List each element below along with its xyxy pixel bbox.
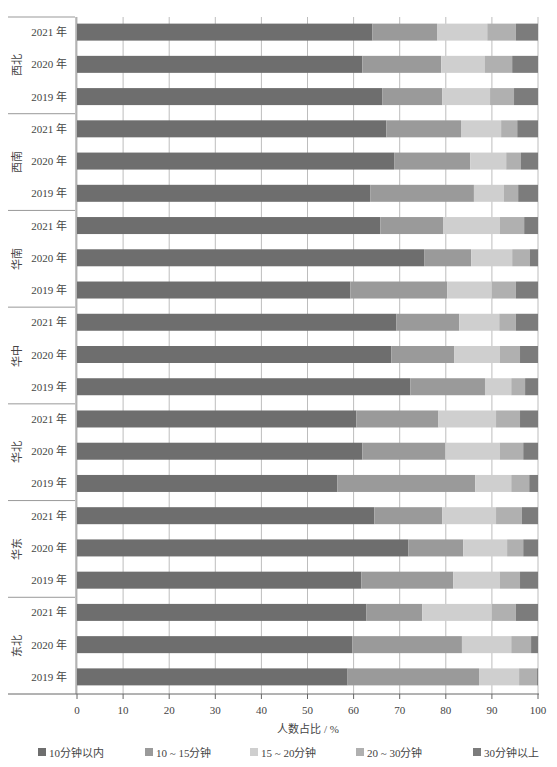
bar-segment bbox=[507, 539, 523, 556]
bar-segment bbox=[462, 636, 511, 653]
bar-segment bbox=[77, 668, 348, 685]
legend-label: 20 ~ 30分钟 bbox=[367, 744, 422, 760]
bar-segment bbox=[516, 24, 538, 41]
bar-segment bbox=[391, 346, 454, 363]
legend-item: 15 ~ 20分钟 bbox=[250, 744, 316, 760]
bar-segment bbox=[520, 410, 538, 427]
bar-row bbox=[77, 443, 538, 460]
bar-segment bbox=[521, 153, 538, 170]
legend-item: 20 ~ 30分钟 bbox=[356, 744, 422, 760]
bar-segment bbox=[77, 56, 362, 73]
x-tick-label: 70 bbox=[394, 704, 406, 716]
bar-row bbox=[77, 668, 538, 685]
bar-segment bbox=[454, 346, 500, 363]
bar-segment bbox=[496, 410, 520, 427]
bar-segment bbox=[396, 314, 459, 331]
bar-segment bbox=[492, 282, 516, 299]
legend-swatch-icon bbox=[145, 748, 153, 756]
legend-swatch-icon bbox=[356, 748, 364, 756]
bar-segment bbox=[485, 56, 512, 73]
bar-segment bbox=[520, 572, 538, 589]
stacked-bar-chart: 2021 年2020 年2019 年2021 年2020 年2019 年2021… bbox=[0, 0, 557, 767]
bar-segment bbox=[394, 153, 470, 170]
bar-row bbox=[77, 314, 538, 331]
bar-segment bbox=[530, 249, 538, 266]
bar-segment bbox=[520, 346, 538, 363]
bar-segment bbox=[511, 475, 529, 492]
x-axis: 0102030405060708090100 bbox=[8, 694, 547, 716]
bar-segment bbox=[337, 475, 475, 492]
bar-segment bbox=[496, 507, 522, 524]
bar-segment bbox=[77, 346, 391, 363]
bar-segment bbox=[475, 475, 511, 492]
bar-segment bbox=[504, 185, 518, 202]
year-label: 2020 年 bbox=[31, 348, 67, 361]
year-label: 2019 年 bbox=[31, 573, 67, 586]
bar-segment bbox=[77, 443, 362, 460]
bar-segment bbox=[348, 668, 479, 685]
legend-label: 30分钟以上 bbox=[484, 744, 539, 760]
bar-segment bbox=[350, 282, 447, 299]
bar-segment bbox=[500, 572, 520, 589]
bar-segment bbox=[529, 475, 538, 492]
bar-segment bbox=[441, 56, 485, 73]
bar-row bbox=[77, 56, 538, 73]
bar-segment bbox=[77, 153, 394, 170]
bar-segment bbox=[77, 24, 373, 41]
bar-segment bbox=[479, 668, 519, 685]
legend-item: 10 ~ 15分钟 bbox=[145, 744, 211, 760]
bar-segment bbox=[470, 153, 506, 170]
bars bbox=[77, 24, 538, 686]
year-label: 2019 年 bbox=[31, 90, 67, 103]
bar-row bbox=[77, 249, 538, 266]
bar-segment bbox=[512, 56, 538, 73]
bar-segment bbox=[437, 24, 487, 41]
bar-segment bbox=[370, 185, 474, 202]
year-label: 2019 年 bbox=[31, 283, 67, 296]
bar-segment bbox=[77, 282, 350, 299]
bar-segment bbox=[443, 217, 500, 234]
bar-segment bbox=[517, 120, 538, 137]
bar-segment bbox=[522, 507, 538, 524]
bar-segment bbox=[367, 604, 423, 621]
bar-segment bbox=[516, 314, 538, 331]
legend-label: 10分钟以内 bbox=[49, 744, 104, 760]
year-label: 2020 年 bbox=[31, 444, 67, 457]
bar-segment bbox=[499, 314, 516, 331]
year-label: 2021 年 bbox=[31, 25, 67, 38]
region-label: 华东 bbox=[10, 538, 23, 560]
year-label: 2020 年 bbox=[31, 251, 67, 264]
bar-segment bbox=[408, 539, 463, 556]
bar-segment bbox=[511, 636, 531, 653]
bar-segment bbox=[445, 443, 499, 460]
bar-segment bbox=[77, 120, 386, 137]
bar-segment bbox=[77, 217, 380, 234]
bar-segment bbox=[506, 153, 521, 170]
bar-segment bbox=[537, 668, 538, 685]
bar-row bbox=[77, 507, 538, 524]
bar-segment bbox=[514, 88, 538, 105]
legend-swatch-icon bbox=[473, 748, 481, 756]
bar-segment bbox=[373, 24, 438, 41]
year-label: 2021 年 bbox=[31, 412, 67, 425]
bar-row bbox=[77, 217, 538, 234]
x-tick-label: 0 bbox=[74, 704, 80, 716]
bar-segment bbox=[485, 378, 511, 395]
legend-swatch-icon bbox=[250, 748, 258, 756]
legend-label: 15 ~ 20分钟 bbox=[261, 744, 316, 760]
bar-segment bbox=[77, 539, 408, 556]
x-tick-label: 20 bbox=[164, 704, 176, 716]
y-axis-labels: 2021 年2020 年2019 年2021 年2020 年2019 年2021… bbox=[10, 25, 67, 683]
bar-segment bbox=[525, 378, 538, 395]
bar-segment bbox=[442, 507, 496, 524]
year-label: 2021 年 bbox=[31, 219, 67, 232]
bar-segment bbox=[512, 249, 530, 266]
bar-row bbox=[77, 539, 538, 556]
bar-segment bbox=[490, 88, 514, 105]
bar-row bbox=[77, 88, 538, 105]
bar-segment bbox=[424, 249, 471, 266]
bar-segment bbox=[487, 24, 516, 41]
bar-segment bbox=[382, 88, 442, 105]
bar-segment bbox=[77, 314, 396, 331]
region-label: 华南 bbox=[10, 248, 23, 270]
